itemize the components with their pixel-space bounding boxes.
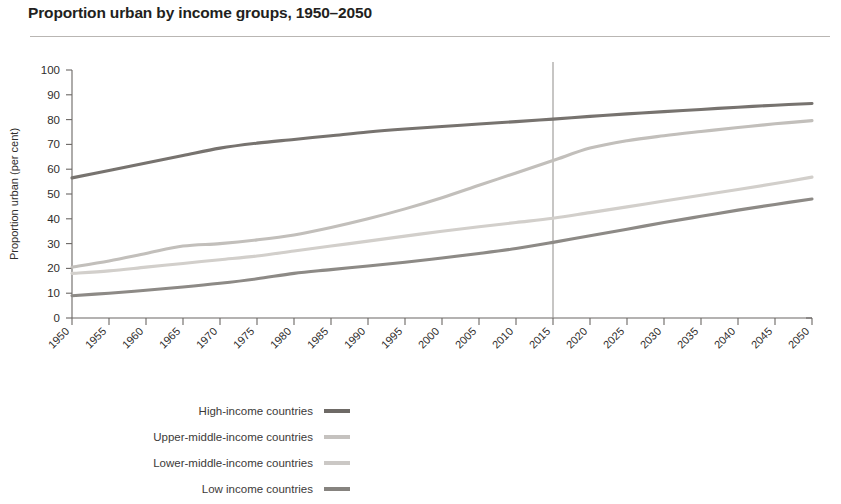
legend-swatch-lower-middle-income xyxy=(324,461,350,465)
x-tick-label: 1990 xyxy=(342,325,368,351)
x-tick-label: 2045 xyxy=(749,325,775,351)
x-tick-label: 1960 xyxy=(120,325,146,351)
legend-item[interactable]: Lower-middle-income countries xyxy=(20,450,350,476)
legend-swatch-upper-middle-income xyxy=(324,435,350,439)
y-tick-label: 0 xyxy=(54,312,60,324)
x-tick-group: 1950195519601965197019751980198519901995… xyxy=(46,318,812,351)
x-tick-label: 1995 xyxy=(379,325,405,351)
legend-swatch-low-income xyxy=(324,487,350,491)
legend-item[interactable]: High-income countries xyxy=(20,398,350,424)
x-tick-label: 2030 xyxy=(638,325,664,351)
series-line xyxy=(72,103,812,177)
y-tick-label: 10 xyxy=(47,287,60,299)
x-tick-label: 1975 xyxy=(231,325,257,351)
x-tick-label: 2020 xyxy=(564,325,590,351)
x-tick-label: 1985 xyxy=(305,325,331,351)
x-tick-label: 2000 xyxy=(416,325,442,351)
legend-swatch-high-income xyxy=(324,409,350,413)
legend-item-label: Upper-middle-income countries xyxy=(153,431,313,443)
y-tick-label: 60 xyxy=(47,163,60,175)
y-tick-label: 100 xyxy=(41,64,60,76)
x-tick-label: 2050 xyxy=(786,325,812,351)
y-tick-label: 40 xyxy=(47,213,60,225)
chart-legend: High-income countries Upper-middle-incom… xyxy=(20,398,350,502)
series-group xyxy=(72,103,812,295)
x-tick-label: 1955 xyxy=(83,325,109,351)
x-tick-label: 1980 xyxy=(268,325,294,351)
y-tick-label: 20 xyxy=(47,262,60,274)
figure-container: Proportion urban by income groups, 1950–… xyxy=(0,0,841,504)
x-tick-label: 2035 xyxy=(675,325,701,351)
x-tick-label: 2005 xyxy=(453,325,479,351)
x-tick-label: 2040 xyxy=(712,325,738,351)
x-tick-label: 1970 xyxy=(194,325,220,351)
x-tick-label: 2025 xyxy=(601,325,627,351)
x-tick-label: 2015 xyxy=(527,325,553,351)
legend-item[interactable]: Upper-middle-income countries xyxy=(20,424,350,450)
legend-item[interactable]: Low income countries xyxy=(20,476,350,502)
y-tick-label: 80 xyxy=(47,114,60,126)
y-axis-title: Proportion urban (per cent) xyxy=(8,128,20,260)
x-tick-label: 2010 xyxy=(490,325,516,351)
line-chart: 1009080706050403020100 19501955196019651… xyxy=(0,0,841,400)
y-tick-group: 1009080706050403020100 xyxy=(41,64,72,324)
legend-item-label: Lower-middle-income countries xyxy=(153,457,313,469)
y-tick-label: 50 xyxy=(47,188,60,200)
legend-item-label: Low income countries xyxy=(202,483,313,495)
legend-item-label: High-income countries xyxy=(199,405,313,417)
x-tick-label: 1965 xyxy=(157,325,183,351)
y-tick-label: 30 xyxy=(47,238,60,250)
y-tick-label: 90 xyxy=(47,89,60,101)
x-tick-label: 1950 xyxy=(46,325,72,351)
y-tick-label: 70 xyxy=(47,138,60,150)
